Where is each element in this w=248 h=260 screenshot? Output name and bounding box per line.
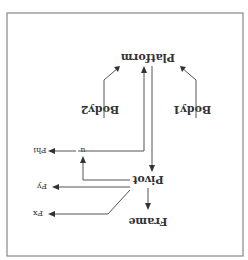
diagram-canvas: Platform Body1 Body2 Pivot Frame u Phi F… xyxy=(0,0,248,260)
edge-pivot-fx xyxy=(52,190,130,214)
diagram-border xyxy=(7,13,243,256)
node-platform: Platform xyxy=(121,51,176,64)
signal-fy: Fy xyxy=(36,182,47,191)
arrowhead-icon xyxy=(149,165,155,172)
arrowhead-icon xyxy=(52,184,59,190)
arrowhead-icon xyxy=(145,203,151,210)
arrowhead-icon xyxy=(80,156,86,163)
arrowhead-icon xyxy=(48,148,55,154)
edge-pivot-u xyxy=(83,160,130,180)
arrowhead-icon xyxy=(141,66,147,73)
signal-phi: Phi xyxy=(33,146,47,155)
node-frame: Frame xyxy=(128,215,167,228)
node-body2: Body2 xyxy=(81,103,119,116)
signal-fx: Fx xyxy=(32,209,43,218)
diagram-rotated-group: Platform Body1 Body2 Pivot Frame u Phi F… xyxy=(7,13,243,256)
node-pivot: Pivot xyxy=(131,173,163,186)
node-body1: Body1 xyxy=(173,103,211,116)
arrowhead-icon xyxy=(48,211,55,217)
